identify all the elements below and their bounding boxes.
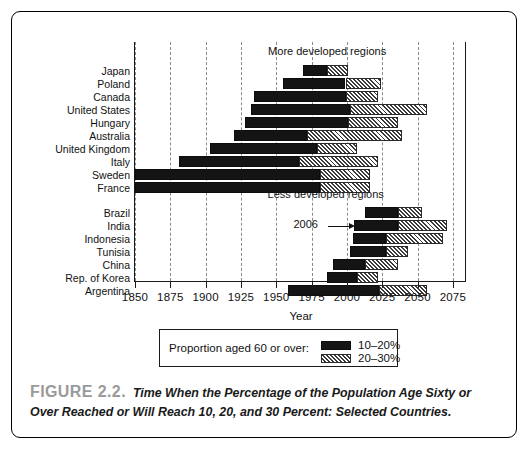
bar-segment-10-20 [303, 65, 327, 76]
x-tick-1900 [206, 282, 207, 288]
bar-segment-10-20 [353, 233, 387, 244]
bar-france [135, 182, 467, 193]
bar-canada [135, 91, 467, 102]
category-label-poland: Poland [10, 79, 130, 90]
x-tick-1850 [135, 282, 136, 288]
annotation-2006-arrow-line [328, 226, 349, 227]
x-tick-label-1975: 1975 [298, 291, 324, 303]
bar-poland [135, 78, 467, 89]
bar-segment-10-20 [210, 143, 317, 154]
bar-segment-10-20 [283, 78, 345, 89]
bar-segment-20-30 [327, 65, 348, 76]
legend-label-20-30: 20–30% [358, 352, 400, 364]
category-label-rep-of-korea: Rep. of Korea [10, 273, 130, 284]
legend-swatch-hatch-icon [321, 354, 351, 363]
bar-segment-20-30 [348, 117, 397, 128]
annotation-2006-arrowhead-icon [349, 223, 355, 229]
bar-segment-10-20 [354, 220, 398, 231]
bar-segment-20-30 [350, 104, 428, 115]
x-tick-2025 [382, 282, 383, 288]
x-tick-label-1900: 1900 [192, 291, 218, 303]
bar-indonesia [135, 233, 467, 244]
x-tick-label-2000: 2000 [334, 291, 360, 303]
category-label-column: JapanPolandCanadaUnited StatesHungaryAus… [8, 42, 130, 282]
bar-united-states [135, 104, 467, 115]
bar-segment-20-30 [386, 246, 407, 257]
category-label-argentina: Argentina [10, 286, 130, 297]
bar-segment-10-20 [254, 91, 346, 102]
bar-segment-10-20 [135, 169, 320, 180]
category-label-united-kingdom: United Kingdom [10, 144, 130, 155]
category-label-australia: Australia [10, 131, 130, 142]
bar-japan [135, 65, 467, 76]
x-tick-1925 [241, 282, 242, 288]
x-tick-2050 [418, 282, 419, 288]
bar-segment-20-30 [307, 130, 402, 141]
bar-tunisia [135, 246, 467, 257]
figure-number: FIGURE 2.2. [30, 383, 126, 400]
bar-segment-20-30 [398, 220, 447, 231]
bar-segment-20-30 [398, 207, 422, 218]
bar-united-kingdom [135, 143, 467, 154]
bar-segment-10-20 [135, 182, 320, 193]
category-label-sweden: Sweden [10, 170, 130, 181]
group-label-more-developed: More developed regions [268, 45, 386, 57]
bar-segment-20-30 [386, 233, 443, 244]
x-tick-label-2075: 2075 [440, 291, 466, 303]
chart-plot-inner: More developed regionsLess developed reg… [135, 42, 465, 281]
bar-italy [135, 156, 467, 167]
x-tick-2000 [347, 282, 348, 288]
bar-segment-20-30 [320, 182, 369, 193]
bar-segment-20-30 [346, 78, 381, 89]
bar-segment-10-20 [333, 259, 365, 270]
bar-segment-10-20 [179, 156, 299, 167]
x-tick-1950 [276, 282, 277, 288]
x-tick-label-1950: 1950 [263, 291, 289, 303]
bar-segment-10-20 [251, 104, 350, 115]
category-label-indonesia: Indonesia [10, 234, 130, 245]
legend-swatch-black-icon [321, 341, 351, 350]
figure-caption: FIGURE 2.2. Time When the Percentage of … [30, 381, 495, 422]
bar-segment-20-30 [346, 91, 378, 102]
x-tick-label-1875: 1875 [157, 291, 183, 303]
bar-sweden [135, 169, 467, 180]
bar-brazil [135, 207, 467, 218]
category-label-hungary: Hungary [10, 118, 130, 129]
bar-segment-20-30 [317, 143, 357, 154]
bar-segment-10-20 [365, 207, 397, 218]
category-label-china: China [10, 260, 130, 271]
bar-segment-20-30 [320, 169, 369, 180]
bar-segment-20-30 [365, 259, 397, 270]
chart-legend: Proportion aged 60 or over: 10–20% 20–30… [159, 329, 398, 367]
bar-china [135, 259, 467, 270]
x-tick-label-1925: 1925 [228, 291, 254, 303]
bar-segment-10-20 [234, 130, 307, 141]
x-tick-1875 [170, 282, 171, 288]
category-label-india: India [10, 221, 130, 232]
legend-title: Proportion aged 60 or over: [169, 342, 309, 354]
x-axis-title: Year [135, 310, 467, 322]
x-tick-label-1850: 1850 [122, 291, 148, 303]
bar-australia [135, 130, 467, 141]
chart-plot-area: More developed regionsLess developed reg… [134, 42, 466, 282]
category-label-france: France [10, 183, 130, 194]
category-label-united-states: United States [10, 105, 130, 116]
bar-hungary [135, 117, 467, 128]
legend-label-10-20: 10–20% [358, 339, 400, 351]
x-tick-2075 [453, 282, 454, 288]
category-label-canada: Canada [10, 92, 130, 103]
category-label-japan: Japan [10, 66, 130, 77]
annotation-2006-label: 2006 [293, 218, 317, 230]
category-label-italy: Italy [10, 157, 130, 168]
bar-segment-20-30 [357, 272, 378, 283]
x-tick-label-2025: 2025 [369, 291, 395, 303]
category-label-brazil: Brazil [10, 208, 130, 219]
x-tick-1975 [312, 282, 313, 288]
bar-segment-10-20 [245, 117, 348, 128]
bar-segment-10-20 [350, 246, 387, 257]
category-label-tunisia: Tunisia [10, 247, 130, 258]
figure-page: JapanPolandCanadaUnited StatesHungaryAus… [0, 0, 528, 449]
bar-segment-20-30 [299, 156, 378, 167]
bar-segment-10-20 [327, 272, 357, 283]
x-tick-label-2050: 2050 [404, 291, 430, 303]
